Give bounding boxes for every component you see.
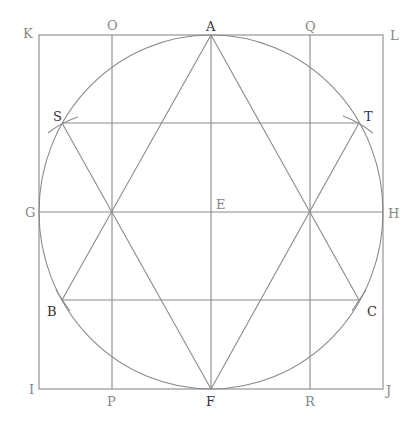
label-P: P xyxy=(107,394,116,409)
label-Q: Q xyxy=(305,19,316,34)
label-R: R xyxy=(305,394,316,409)
label-I: I xyxy=(29,382,34,397)
label-K: K xyxy=(23,26,33,41)
label-C: C xyxy=(367,304,377,319)
line-FT xyxy=(211,123,359,389)
label-G: G xyxy=(25,205,35,220)
label-H: H xyxy=(388,206,399,221)
line-AC xyxy=(211,35,359,300)
label-F: F xyxy=(206,394,215,409)
hexagram-construction-diagram: K O A Q L S T G E H B C I P F R J xyxy=(0,0,417,428)
label-T: T xyxy=(364,109,373,124)
label-J: J xyxy=(384,383,391,398)
label-O: O xyxy=(107,18,118,33)
label-E: E xyxy=(216,197,226,212)
line-AB xyxy=(62,35,211,300)
label-B: B xyxy=(47,304,57,319)
line-FS xyxy=(62,123,211,389)
label-A: A xyxy=(205,19,216,34)
label-L: L xyxy=(390,28,399,43)
label-S: S xyxy=(53,109,62,124)
